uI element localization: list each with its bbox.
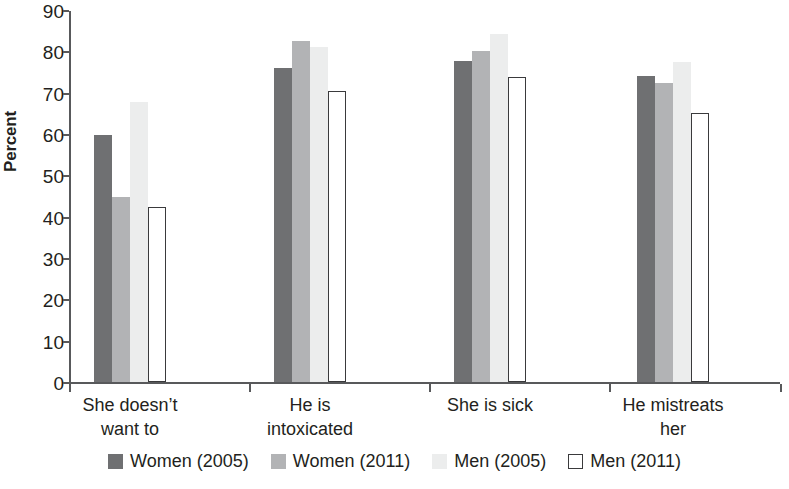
x-axis-tick-mark [69,384,71,392]
legend-item-label: Men (2011) [590,452,681,471]
x-axis-category-label-line: She doesn’t [40,393,220,417]
legend-item[interactable]: Women (2011) [271,452,410,471]
y-axis-tick-label: 10 [28,333,64,352]
x-axis-category-label-line: intoxicated [220,417,400,441]
x-axis-category-label: He mistreatsher [583,393,763,441]
y-axis-tick-labels: 0102030405060708090 [22,0,64,400]
y-axis-tick-mark [63,258,69,260]
bar [508,77,526,382]
y-axis-tick-mark [63,299,69,301]
y-axis-title: Percent [0,52,22,172]
white-outline-swatch [568,454,583,469]
bar [112,197,130,382]
x-axis-tick-mark [249,384,251,392]
bar [148,207,166,382]
legend-item[interactable]: Men (2011) [568,452,681,471]
bar-group [274,11,346,383]
x-axis-category-label: He isintoxicated [220,393,400,441]
y-axis-tick-label: 40 [28,209,64,228]
bar [454,61,472,382]
bar [274,68,292,382]
x-axis-category-label: She doesn’twant to [40,393,220,441]
x-axis-category-label-line: He is [220,393,400,417]
y-axis-tick-label: 80 [28,43,64,62]
x-axis-tick-mark [780,384,782,392]
bar-chart: Percent 0102030405060708090 She doesn’tw… [0,0,789,489]
bar [673,62,691,382]
y-axis-tick-label: 60 [28,126,64,145]
y-axis-tick-mark [63,93,69,95]
bar [130,102,148,382]
y-axis-tick-label: 70 [28,85,64,104]
legend-item-label: Men (2005) [454,452,546,471]
y-axis-tick-label: 0 [28,374,64,393]
bar [328,91,346,382]
medium-gray-swatch [271,454,286,469]
bar [490,34,508,382]
legend-item[interactable]: Women (2005) [108,452,249,471]
legend-item-label: Women (2005) [130,452,249,471]
bar [310,47,328,382]
x-axis-tick-mark [609,384,611,392]
legend-item[interactable]: Men (2005) [432,452,546,471]
bar [691,113,709,382]
x-axis-category-label-line: She is sick [400,393,580,417]
bar [94,135,112,382]
y-axis-tick-label: 90 [28,2,64,21]
y-axis-tick-mark [63,51,69,53]
bar [472,51,490,382]
y-axis-tick-mark [63,10,69,12]
y-axis-tick-label: 20 [28,291,64,310]
legend-item-label: Women (2011) [293,452,410,471]
y-axis-tick-label: 50 [28,167,64,186]
x-axis-category-label-line: her [583,417,763,441]
bar [292,41,310,382]
bar-group [637,11,709,383]
dark-gray-swatch [108,454,123,469]
y-axis-line [69,11,71,384]
bar-group [94,11,166,383]
x-axis-category-label-line: He mistreats [583,393,763,417]
chart-legend: Women (2005)Women (2011)Men (2005)Men (2… [0,452,789,471]
y-axis-tick-label: 30 [28,250,64,269]
x-axis-category-label-line: want to [40,417,220,441]
plot-area [69,11,780,383]
x-axis-tick-mark [429,384,431,392]
y-axis-tick-mark [63,341,69,343]
y-axis-tick-mark [63,175,69,177]
bar [655,83,673,382]
light-gray-swatch [432,454,447,469]
bar [637,76,655,382]
y-axis-tick-mark [63,134,69,136]
bar-group [454,11,526,383]
x-axis-category-label: She is sick [400,393,580,417]
y-axis-tick-mark [63,217,69,219]
